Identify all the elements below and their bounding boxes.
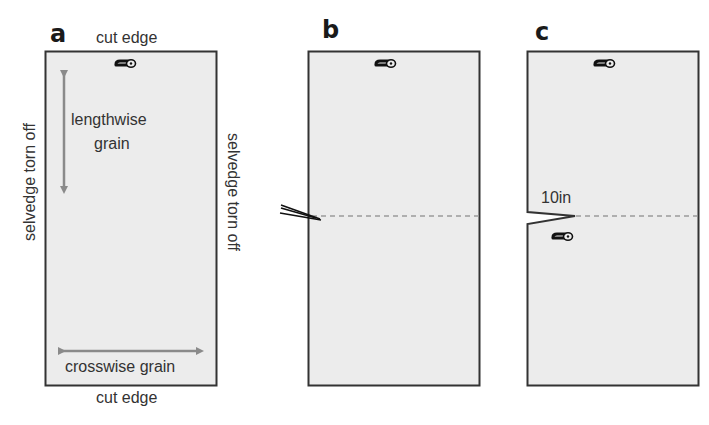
panel-label-b: b: [322, 18, 339, 42]
lengthwise-grain-label-line1: lengthwise: [71, 112, 147, 128]
safety-pin-icon: [553, 233, 573, 241]
fabric-rectangle-b: [309, 52, 480, 386]
lengthwise-grain-label-line2: grain: [94, 136, 130, 152]
bottom-cut-edge-label: cut edge: [96, 390, 157, 406]
safety-pin-icon: [595, 60, 615, 68]
left-selvedge-label: selvedge torn off: [22, 112, 38, 252]
safety-pin-icon: [116, 60, 136, 68]
top-cut-edge-label: cut edge: [96, 30, 157, 46]
fabric-rectangle-a: [46, 52, 217, 386]
cut-length-label: 10in: [541, 190, 571, 206]
safety-pin-icon: [376, 60, 396, 68]
panel-a: [46, 52, 217, 386]
panel-label-a: a: [50, 22, 66, 46]
panel-label-c: c: [535, 20, 549, 44]
fabric-rectangle-c: [528, 52, 699, 386]
crosswise-grain-label: crosswise grain: [65, 359, 175, 375]
right-selvedge-label: selvedge torn off: [225, 122, 241, 262]
panel-b: [280, 52, 480, 386]
panel-c: [528, 52, 699, 386]
